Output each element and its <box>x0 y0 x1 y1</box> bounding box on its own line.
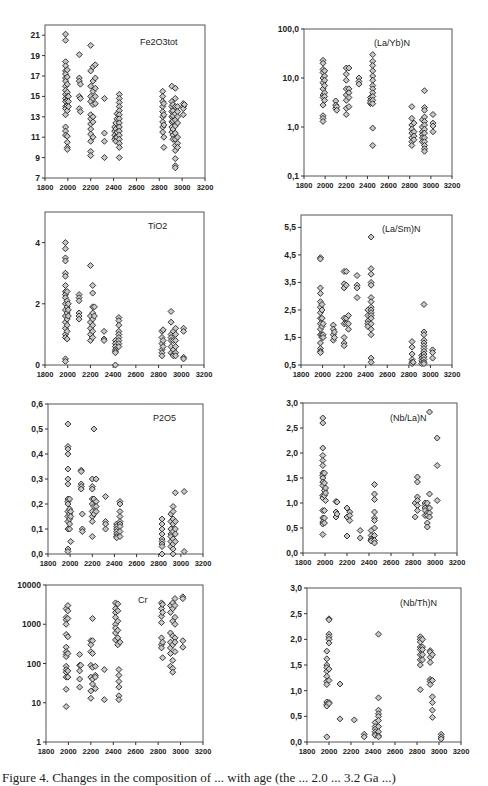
x-tick-label: 2200 <box>338 181 355 190</box>
x-tick-label: 2200 <box>336 370 353 379</box>
diamond-marker <box>101 130 107 136</box>
x-tick-label: 3200 <box>444 370 461 379</box>
diamond-marker <box>424 524 430 530</box>
y-tick-label: 1,5 <box>290 660 302 670</box>
panel-la_sm: 180020002200240026002800300032000,51,52,… <box>284 215 460 379</box>
x-tick-label: 1800 <box>38 747 55 756</box>
diamond-marker <box>89 534 95 540</box>
diamond-marker <box>160 655 166 661</box>
x-tick-label: 3200 <box>453 747 470 756</box>
diamond-marker <box>172 490 178 496</box>
diamond-marker <box>76 52 82 58</box>
y-tick-label: 0,1 <box>31 524 43 534</box>
diamond-marker <box>414 508 420 514</box>
y-tick-label: 2,0 <box>286 448 298 458</box>
panel-p2o5: 180020002200240026002800300032000,00,10,… <box>31 399 211 568</box>
diamond-marker <box>343 111 349 117</box>
diamond-marker <box>79 511 85 517</box>
diamond-marker <box>372 482 378 488</box>
data-points <box>320 52 436 155</box>
x-tick-label: 2400 <box>105 183 122 192</box>
plot-frame <box>301 215 452 365</box>
diamond-marker <box>409 104 415 110</box>
diamond-marker <box>372 497 378 503</box>
diamond-marker <box>159 620 165 626</box>
diamond-marker <box>368 332 374 338</box>
diamond-marker <box>320 463 326 469</box>
data-points <box>63 594 186 710</box>
x-tick-label: 3200 <box>195 559 212 568</box>
x-tick-label: 3000 <box>172 747 189 756</box>
y-tick-label: 10000 <box>17 580 41 590</box>
diamond-marker <box>93 476 99 482</box>
x-tick-label: 3000 <box>431 747 448 756</box>
diamond-marker <box>180 112 186 118</box>
panel-title: Fe2O3tot <box>140 37 178 47</box>
y-tick-label: 5,5 <box>284 222 296 232</box>
x-tick-label: 2800 <box>409 747 426 756</box>
diamond-marker <box>427 409 433 415</box>
panel-fe2o3: 1800200022002400260028003000320079111315… <box>31 25 214 192</box>
diamond-marker <box>116 672 122 678</box>
diamond-marker <box>62 246 68 252</box>
diamond-marker <box>376 695 382 701</box>
diamond-marker <box>434 498 440 504</box>
plot-frame <box>45 212 204 365</box>
x-tick-label: 3000 <box>174 183 191 192</box>
diamond-marker <box>161 144 167 150</box>
y-tick-label: 1000 <box>22 619 41 629</box>
diamond-marker <box>343 71 349 77</box>
y-tick-label: 1 <box>36 737 41 747</box>
panel-title: P2O5 <box>153 413 176 423</box>
diamond-marker <box>91 426 97 432</box>
x-tick-label: 3000 <box>173 559 190 568</box>
diamond-marker <box>161 134 167 140</box>
diamond-marker <box>62 282 68 288</box>
diamond-marker <box>430 355 436 361</box>
diamond-marker <box>180 638 186 644</box>
panel-title: (La/Yb)N <box>374 38 410 48</box>
diamond-marker <box>88 695 94 701</box>
y-tick-label: 4,5 <box>284 250 296 260</box>
diamond-marker <box>168 308 174 314</box>
diamond-marker <box>357 528 363 534</box>
y-tick-label: 100 <box>27 659 41 669</box>
y-tick-label: 0,5 <box>31 424 43 434</box>
diamond-marker <box>430 111 436 117</box>
diamond-marker <box>370 142 376 148</box>
x-tick-label: 2600 <box>128 559 145 568</box>
diamond-marker <box>90 282 96 288</box>
x-tick-label: 3200 <box>444 181 461 190</box>
diamond-marker <box>320 445 326 451</box>
y-tick-label: 1,0 <box>290 686 302 696</box>
diamond-marker <box>101 155 107 161</box>
diamond-marker <box>101 667 107 673</box>
diamond-marker <box>103 526 109 532</box>
diamond-marker <box>172 156 178 162</box>
x-tick-label: 2800 <box>401 370 418 379</box>
x-tick-label: 1800 <box>295 558 312 567</box>
x-tick-label: 1800 <box>37 183 54 192</box>
diamond-marker <box>429 699 435 705</box>
diamond-marker <box>101 138 107 144</box>
diamond-marker <box>87 263 93 269</box>
y-tick-label: 10,0 <box>282 73 299 83</box>
x-tick-label: 2400 <box>357 370 374 379</box>
x-tick-label: 2400 <box>106 559 123 568</box>
diamond-marker <box>77 651 83 657</box>
diamond-marker <box>414 479 420 485</box>
y-tick-label: 0,2 <box>31 499 43 509</box>
diamond-marker <box>421 301 427 307</box>
y-tick-label: 3,5 <box>284 277 296 287</box>
diamond-marker <box>77 684 83 690</box>
x-tick-label: 1800 <box>293 370 310 379</box>
diamond-marker <box>63 31 69 37</box>
x-tick-label: 2200 <box>84 559 101 568</box>
y-tick-label: 19 <box>31 51 41 61</box>
y-tick-label: 3,0 <box>286 398 298 408</box>
diamond-marker <box>170 551 176 557</box>
x-tick-label: 2600 <box>383 558 400 567</box>
data-points <box>63 31 188 171</box>
diamond-marker <box>372 509 378 515</box>
